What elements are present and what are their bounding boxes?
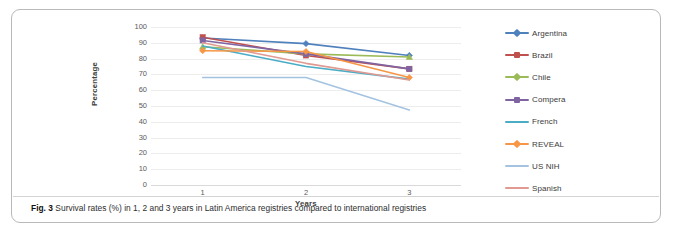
gridline	[151, 185, 461, 186]
plot-area	[151, 27, 461, 185]
figure-caption-text: Survival rates (%) in 1, 2 and 3 years i…	[55, 203, 426, 213]
figure-caption: Fig. 3 Survival rates (%) in 1, 2 and 3 …	[31, 203, 641, 214]
y-tick-label: 30	[139, 134, 147, 142]
legend-swatch-icon	[505, 161, 529, 171]
y-tick-label: 90	[139, 39, 147, 47]
legend-item-label: US NIH	[532, 162, 560, 171]
legend-item-label: Compera	[532, 95, 566, 104]
legend-item-brazil[interactable]: Brazil	[505, 48, 553, 62]
chart-legend: ArgentinaBrazilChileComperaFrenchREVEALU…	[505, 26, 645, 206]
y-tick-label: 20	[139, 150, 147, 158]
legend-item-label: REVEAL	[532, 140, 564, 149]
legend-item-reveal[interactable]: REVEAL	[505, 137, 564, 151]
y-tick-label: 10	[139, 165, 147, 173]
legend-item-compera[interactable]: Compera	[505, 93, 566, 107]
legend-swatch-icon	[505, 72, 529, 82]
legend-item-chile[interactable]: Chile	[505, 70, 551, 84]
y-tick-label: 100	[134, 23, 147, 31]
legend-swatch-icon	[505, 139, 529, 149]
legend-item-label: Brazil	[532, 51, 553, 60]
legend-item-french[interactable]: French	[505, 115, 558, 129]
y-axis-title: Percentage	[90, 62, 99, 106]
legend-item-us-nih[interactable]: US NIH	[505, 159, 560, 173]
legend-item-label: French	[532, 117, 558, 126]
legend-swatch-icon	[505, 50, 529, 60]
y-axis-tick-labels: 1009080706050403020100	[113, 27, 147, 185]
y-tick-label: 50	[139, 102, 147, 110]
caption-divider	[13, 196, 659, 197]
y-tick-label: 70	[139, 71, 147, 79]
legend-swatch-icon	[505, 28, 529, 38]
chart-region: Percentage 1009080706050403020100 123 Ye…	[12, 10, 660, 196]
legend-swatch-icon	[505, 95, 529, 105]
legend-swatch-icon	[505, 117, 529, 127]
y-tick-label: 0	[143, 181, 147, 189]
data-point	[303, 40, 309, 46]
y-tick-label: 60	[139, 86, 147, 94]
series-line	[203, 78, 410, 110]
legend-swatch-icon	[505, 183, 529, 193]
legend-item-spanish[interactable]: Spanish	[505, 181, 562, 195]
legend-item-label: Argentina	[532, 29, 567, 38]
legend-item-label: Spanish	[532, 184, 562, 193]
figure-caption-label: Fig. 3	[31, 203, 53, 213]
series-us-nih	[203, 78, 410, 110]
data-point	[407, 66, 412, 71]
y-tick-label: 80	[139, 55, 147, 63]
series-lines	[151, 27, 461, 185]
legend-item-argentina[interactable]: Argentina	[505, 26, 567, 40]
figure-panel: Percentage 1009080706050403020100 123 Ye…	[11, 9, 661, 223]
y-tick-label: 40	[139, 118, 147, 126]
legend-item-label: Chile	[532, 73, 551, 82]
